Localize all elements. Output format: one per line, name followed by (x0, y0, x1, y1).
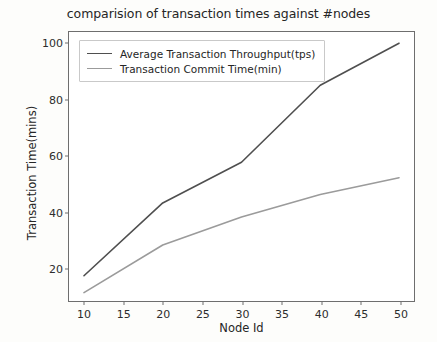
x-tick-label: 45 (354, 308, 368, 321)
x-axis-label: Node Id (68, 321, 415, 335)
y-tick-mark (65, 156, 69, 157)
y-tick-label: 60 (49, 150, 63, 163)
x-tick-label: 25 (196, 308, 210, 321)
x-tick-mark (321, 301, 322, 305)
x-tick-label: 50 (394, 308, 408, 321)
x-tick-mark (361, 301, 362, 305)
x-tick-mark (84, 301, 85, 305)
x-tick-mark (202, 301, 203, 305)
x-tick-label: 15 (117, 308, 131, 321)
y-tick-mark (65, 212, 69, 213)
y-tick-mark (65, 269, 69, 270)
y-axis-label: Transaction Time(mins) (25, 38, 39, 309)
y-tick-mark (65, 99, 69, 100)
legend-item-0: Average Transaction Throughput(tps) (87, 46, 315, 61)
chart-figure: comparision of transaction times against… (0, 0, 437, 342)
y-tick-label: 80 (49, 93, 63, 106)
legend-swatch-1 (87, 68, 112, 69)
chart-legend: Average Transaction Throughput(tps) Tran… (79, 40, 325, 82)
y-tick-label: 40 (49, 206, 63, 219)
y-tick-label: 100 (42, 37, 63, 50)
x-tick-label: 20 (156, 308, 170, 321)
x-tick-mark (163, 301, 164, 305)
chart-title: comparision of transaction times against… (0, 6, 437, 21)
legend-label-0: Average Transaction Throughput(tps) (120, 48, 315, 60)
line-series-1 (84, 178, 399, 293)
x-tick-label: 35 (275, 308, 289, 321)
legend-swatch-0 (87, 53, 112, 54)
x-tick-mark (123, 301, 124, 305)
x-tick-label: 40 (315, 308, 329, 321)
legend-label-1: Transaction Commit Time(min) (120, 63, 282, 75)
y-tick-mark (65, 43, 69, 44)
x-tick-mark (282, 301, 283, 305)
x-tick-label: 30 (236, 308, 250, 321)
x-tick-mark (400, 301, 401, 305)
legend-item-1: Transaction Commit Time(min) (87, 61, 315, 76)
x-tick-mark (242, 301, 243, 305)
plot-area: Average Transaction Throughput(tps) Tran… (68, 31, 415, 302)
y-tick-label: 20 (49, 263, 63, 276)
x-tick-label: 10 (77, 308, 91, 321)
